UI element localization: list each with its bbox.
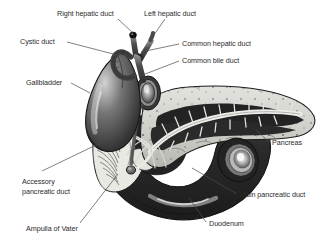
label-left-hepatic-duct: Left hepatic duct — [144, 9, 196, 18]
leader-right-hepatic-duct — [118, 19, 133, 33]
leader-common-bile-duct — [140, 61, 179, 76]
ampulla-of-vater-structure — [126, 166, 135, 174]
label-common-bile-duct: Common bile duct — [182, 56, 239, 65]
label-accessory-pancreatic-duct-line2: pancreatic duct — [22, 187, 70, 196]
anatomy-figure: Right hepatic duct Left hepatic duct Cys… — [0, 0, 325, 242]
leader-gallbladder — [71, 83, 90, 93]
label-common-hepatic-duct: Common hepatic duct — [182, 39, 251, 48]
label-main-pancreatic-duct: Main pancreatic duct — [240, 190, 305, 199]
label-ampulla-of-vater: Ampulla of Vater — [26, 224, 78, 233]
label-cystic-duct: Cystic duct — [20, 37, 55, 46]
leader-cystic-duct — [67, 42, 121, 56]
label-right-hepatic-duct: Right hepatic duct — [57, 9, 114, 18]
label-duodenum: Duodenum — [209, 219, 244, 228]
label-pancreas: Pancreas — [272, 138, 302, 147]
leader-left-hepatic-duct — [151, 19, 165, 39]
label-gallbladder: Gallbladder — [26, 78, 63, 87]
label-accessory-pancreatic-duct: Accessory — [22, 177, 55, 186]
